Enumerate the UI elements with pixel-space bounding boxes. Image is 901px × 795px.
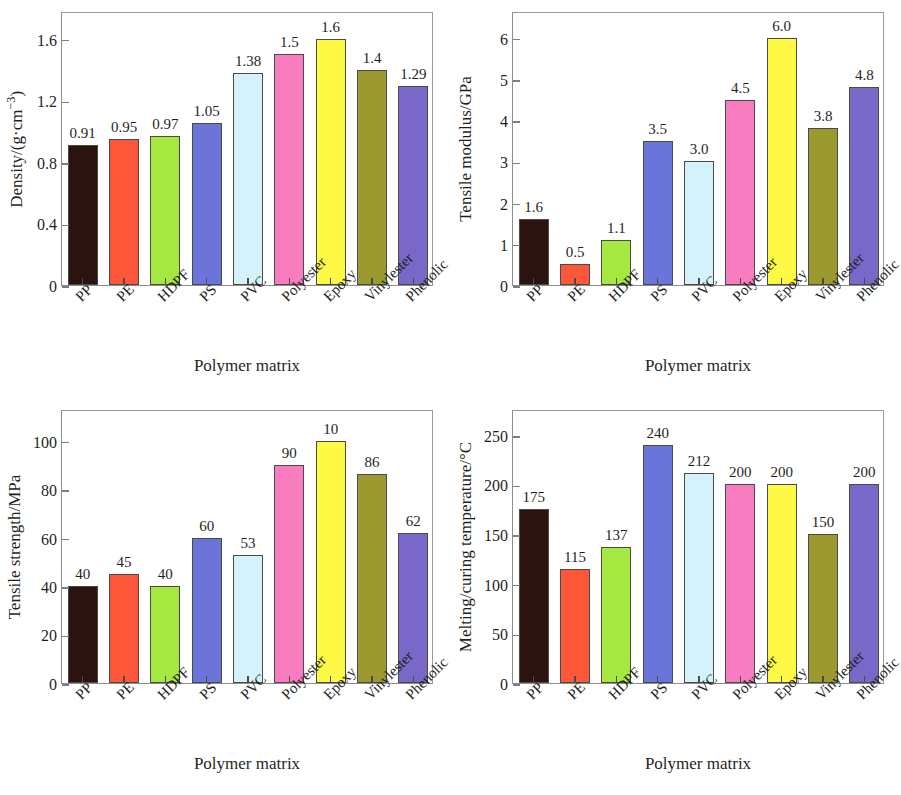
bar <box>808 534 838 683</box>
bar <box>725 100 755 285</box>
x-axis-tick-label: PE <box>565 282 588 305</box>
y-axis-tick-label: 1.6 <box>37 33 57 49</box>
figure-grid: Density/(g·cm−3) 0.910.950.971.051.381.5… <box>0 0 901 795</box>
plot-area: 0.910.950.971.051.381.51.61.41.29 00.40.… <box>61 12 433 286</box>
y-axis-tick-label: 3 <box>500 155 508 171</box>
bar-value-label: 3.0 <box>690 142 709 157</box>
bar <box>684 473 714 683</box>
bar-series: 0.910.950.971.051.381.51.61.41.29 <box>62 13 432 285</box>
bar-value-label: 53 <box>241 536 256 551</box>
y-axis-tick-label: 60 <box>41 532 57 548</box>
plot-area: 175115137240212200200150200 050100150200… <box>512 410 884 684</box>
bar-value-label: 1.38 <box>235 54 261 69</box>
bar-value-label: 150 <box>812 515 835 530</box>
bar <box>233 555 263 684</box>
y-axis-label-text: Melting/curing temperature/°C <box>456 442 476 652</box>
y-axis-label: Melting/curing temperature/°C <box>455 410 477 684</box>
bar <box>808 128 838 285</box>
y-axis-tick: 0.4 <box>62 225 69 226</box>
bar <box>192 123 222 285</box>
bar-value-label: 1.6 <box>321 20 340 35</box>
y-axis-tick-label: 6 <box>500 32 508 48</box>
x-axis-tick-label: PP <box>524 680 546 702</box>
plot-area: 1.60.51.13.53.04.56.03.84.8 0123456PPPEH… <box>512 12 884 286</box>
chart-panel-melting-temperature: Melting/curing temperature/°C 1751151372… <box>451 398 901 795</box>
bar <box>274 54 304 285</box>
y-axis-tick: 1 <box>513 245 520 246</box>
y-axis-tick-label: 0 <box>500 279 508 295</box>
bar <box>725 484 755 683</box>
bar <box>357 474 387 683</box>
y-axis-label-text: Density/(g·cm−3) <box>4 91 27 208</box>
x-axis-tick-label: PS <box>648 680 670 702</box>
y-axis-tick: 0.8 <box>62 163 69 164</box>
bar <box>316 39 346 285</box>
y-axis-tick-label: 0 <box>49 677 57 693</box>
y-axis-tick: 20 <box>62 636 69 637</box>
x-axis-tick-label: PE <box>565 680 588 703</box>
y-axis-tick: 5 <box>513 80 520 81</box>
bar-value-label: 4.8 <box>855 68 874 83</box>
bar-value-label: 4.5 <box>731 81 750 96</box>
bar <box>68 586 98 683</box>
bar-value-label: 1.6 <box>524 200 543 215</box>
chart-panel-tensile-strength: Tensile strength/MPa 404540605390108662 … <box>0 398 450 795</box>
bar <box>684 161 714 285</box>
y-axis-tick-label: 2 <box>500 197 508 213</box>
y-axis-label: Tensile strength/MPa <box>4 410 26 684</box>
bar-series: 175115137240212200200150200 <box>513 411 883 683</box>
bar <box>68 145 98 285</box>
y-axis-tick: 4 <box>513 121 520 122</box>
x-axis-label: Polymer matrix <box>61 356 433 376</box>
bar-value-label: 1.29 <box>400 67 426 82</box>
bar <box>643 141 673 285</box>
bar <box>316 441 346 683</box>
y-axis-tick: 150 <box>513 535 520 536</box>
y-axis-tick-label: 80 <box>41 483 57 499</box>
bar <box>274 465 304 683</box>
y-axis-tick: 200 <box>513 486 520 487</box>
bar-value-label: 200 <box>729 465 752 480</box>
y-axis-tick-label: 1 <box>500 238 508 254</box>
bar-value-label: 1.1 <box>607 221 626 236</box>
bar-value-label: 45 <box>117 555 132 570</box>
y-axis-tick-label: 5 <box>500 73 508 89</box>
bar <box>643 445 673 683</box>
x-axis-label: Polymer matrix <box>512 356 884 376</box>
x-axis-tick-label: PS <box>648 282 670 304</box>
x-axis-label: Polymer matrix <box>512 754 884 774</box>
bar-value-label: 40 <box>75 567 90 582</box>
y-axis-tick: 0 <box>62 286 69 287</box>
bar-value-label: 6.0 <box>772 19 791 34</box>
y-axis-tick: 1.6 <box>62 40 69 41</box>
bar-value-label: 212 <box>688 454 711 469</box>
y-axis-tick: 1.2 <box>62 102 69 103</box>
y-axis-tick-label: 40 <box>41 580 57 596</box>
bar-value-label: 200 <box>770 465 793 480</box>
bar-value-label: 62 <box>406 514 421 529</box>
bar-value-label: 0.95 <box>111 120 137 135</box>
y-axis-tick: 6 <box>513 39 520 40</box>
bar <box>233 73 263 285</box>
y-axis-tick-label: 100 <box>33 435 57 451</box>
y-axis-tick: 60 <box>62 539 69 540</box>
bar <box>192 538 222 683</box>
bar-series: 404540605390108662 <box>62 411 432 683</box>
x-axis-tick-label: PS <box>197 680 219 702</box>
y-axis-tick-label: 20 <box>41 628 57 644</box>
bar <box>357 70 387 286</box>
y-axis-tick-label: 1.2 <box>37 94 57 110</box>
bar <box>767 38 797 285</box>
bar-value-label: 3.5 <box>648 122 667 137</box>
bar-value-label: 86 <box>365 455 380 470</box>
y-axis-tick-label: 0 <box>500 677 508 693</box>
bar-value-label: 1.4 <box>363 51 382 66</box>
x-axis-tick-label: PP <box>73 282 95 304</box>
y-axis-tick: 0 <box>513 684 520 685</box>
y-axis-tick-label: 0 <box>49 279 57 295</box>
y-axis-label: Tensile modulus/GPa <box>455 12 477 286</box>
y-axis-tick: 250 <box>513 436 520 437</box>
y-axis-tick-label: 250 <box>484 429 508 445</box>
bar-value-label: 0.97 <box>152 117 178 132</box>
bar-value-label: 240 <box>646 426 669 441</box>
